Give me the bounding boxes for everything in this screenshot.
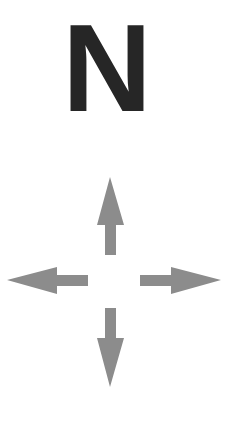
arrow-down-icon [97, 308, 124, 387]
arrow-left-icon [7, 267, 88, 294]
arrow-right-icon [140, 267, 221, 294]
arrow-up-icon [97, 177, 124, 255]
compass-arrows [0, 0, 241, 425]
